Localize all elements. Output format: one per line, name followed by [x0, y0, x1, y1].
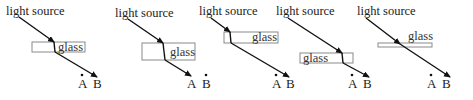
point-a-label: A	[427, 76, 437, 91]
glass-slab	[378, 43, 432, 47]
incident-ray	[288, 18, 342, 53]
incident-ray	[366, 18, 400, 44]
point-a-dot	[275, 74, 278, 77]
glass-label: glass	[252, 30, 277, 44]
incident-ray	[211, 18, 230, 32]
light-source-label: light source	[276, 4, 335, 18]
point-b-label: B	[93, 76, 102, 91]
light-source-label: light source	[115, 6, 174, 20]
incident-ray	[128, 19, 163, 43]
point-a-label: A	[348, 76, 358, 91]
refraction-diagram: light sourceglassABlight sourceglassABli…	[0, 0, 473, 100]
glass-label: glass	[408, 29, 433, 43]
point-a-label: A	[187, 76, 197, 91]
point-b-dot	[205, 74, 208, 77]
point-b-label: B	[286, 76, 295, 91]
glass-label: glass	[303, 51, 328, 65]
point-a-dot	[351, 74, 354, 77]
panel-2: light sourceglassAB	[115, 6, 211, 91]
panel-1: light sourceglassAB	[6, 4, 102, 91]
emergent-ray	[165, 60, 191, 76]
point-a-label: A	[272, 76, 282, 91]
point-b-label: B	[363, 76, 372, 91]
emergent-ray	[55, 52, 97, 77]
emergent-ray	[231, 43, 289, 77]
refracted-ray	[230, 32, 231, 43]
light-source-label: light source	[6, 4, 65, 18]
point-a-dot	[81, 74, 84, 77]
emergent-ray	[343, 63, 369, 77]
light-source-label: light source	[199, 4, 258, 18]
point-b-label: B	[202, 76, 211, 91]
point-a-dot	[430, 74, 433, 77]
point-b-dot	[445, 74, 448, 77]
glass-label: glass	[58, 40, 83, 54]
glass-label: glass	[170, 45, 195, 59]
point-a-label: A	[78, 76, 88, 91]
panels-group: light sourceglassABlight sourceglassABli…	[6, 4, 451, 91]
light-source-label: light source	[357, 4, 416, 18]
emergent-ray	[400, 44, 450, 77]
refracted-ray	[342, 53, 343, 63]
point-b-label: B	[442, 76, 451, 91]
incident-ray	[19, 17, 54, 42]
refracted-ray	[54, 42, 55, 52]
